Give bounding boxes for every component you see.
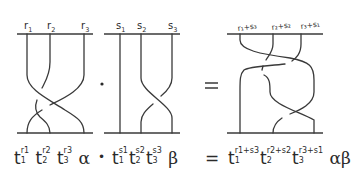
middle-braid: s1 s2 s3 bbox=[104, 20, 180, 133]
label-r2-s2: r₂+s₂ bbox=[271, 20, 291, 32]
formula-rhs: tr1+s31tr2+s22tr3+s13 αβ bbox=[228, 150, 351, 168]
rhs-term-1: tr1+s31 bbox=[228, 150, 260, 168]
rhs-term-3: tr3+s13 bbox=[292, 150, 324, 168]
label-r1: r1 bbox=[24, 20, 32, 34]
label-r3-s1: r₃+s₁ bbox=[300, 19, 320, 31]
strand-s3 bbox=[161, 34, 172, 96]
strand-c-mid bbox=[240, 64, 285, 133]
lhs1-term-1: tr11 bbox=[14, 150, 30, 168]
rhs-term-2: tr2+s22 bbox=[260, 150, 292, 168]
beta-symbol: β bbox=[168, 148, 178, 168]
alpha-symbol: α bbox=[78, 148, 89, 168]
label-s1: s1 bbox=[116, 20, 125, 34]
equals-sign bbox=[205, 83, 218, 88]
label-r1-s3: r₁+s₃ bbox=[237, 21, 257, 33]
strand-r2-lower bbox=[36, 100, 50, 133]
strand-s2 bbox=[141, 34, 172, 133]
strand-s3-lower bbox=[141, 104, 153, 133]
lhs2-term-2: ts22 bbox=[129, 150, 146, 168]
strand-r2 bbox=[42, 34, 50, 88]
label-r3: r3 bbox=[81, 20, 89, 34]
strand-b bbox=[266, 34, 273, 60]
strand-r3 bbox=[50, 34, 84, 105]
strand-c bbox=[292, 34, 301, 61]
right-braid: r₁+s₃ r₂+s₂ r₃+s₁ bbox=[227, 19, 323, 133]
alpha-beta-symbol: αβ bbox=[329, 148, 350, 168]
label-s2: s2 bbox=[137, 20, 146, 34]
product-dot bbox=[100, 82, 103, 85]
strand-r3-lower bbox=[27, 110, 42, 133]
formula-lhs2: ts11ts22ts33 β bbox=[112, 150, 178, 168]
strand-r1 bbox=[27, 34, 84, 133]
formula-equals: = bbox=[205, 150, 219, 167]
formula-line: tr11 tr22 tr33 α bbox=[14, 150, 90, 168]
formula-dot: • bbox=[98, 151, 105, 163]
lhs1-term-3: tr33 bbox=[57, 150, 73, 168]
label-r2: r2 bbox=[47, 20, 55, 34]
left-braid: r1 r2 r3 bbox=[17, 20, 93, 133]
lhs1-term-2: tr22 bbox=[35, 150, 51, 168]
strand-a-lower bbox=[273, 118, 282, 133]
lhs2-term-1: ts11 bbox=[112, 150, 129, 168]
strand-b-low bbox=[264, 75, 314, 133]
lhs2-term-3: ts33 bbox=[146, 150, 163, 168]
label-s3: s3 bbox=[168, 20, 177, 34]
